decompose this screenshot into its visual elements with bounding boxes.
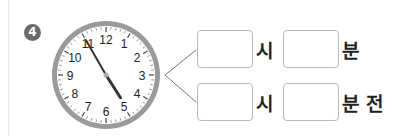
clock-number: 6 (103, 105, 110, 119)
clock-number: 9 (67, 69, 74, 83)
connector-top (165, 50, 196, 75)
hour-answer-box-2[interactable] (197, 83, 253, 121)
clock-center (104, 73, 109, 78)
clock-number: 4 (134, 87, 141, 101)
analog-clock: 121234567891011 (50, 19, 162, 131)
clock-number: 1 (121, 37, 128, 51)
clock-number: 3 (139, 69, 146, 83)
clock-number: 8 (71, 87, 78, 101)
clock-number: 5 (121, 100, 128, 114)
minute-unit-2: 분 전 (342, 93, 383, 115)
clock-number: 2 (134, 51, 141, 65)
hour-answer-box-1[interactable] (197, 30, 253, 68)
problem-number-badge: 4 (24, 24, 41, 41)
minute-answer-box-2[interactable] (283, 83, 339, 121)
minute-answer-box-1[interactable] (283, 30, 339, 68)
hour-unit-1: 시 (256, 40, 273, 62)
clock-number: 10 (68, 51, 82, 65)
clock-number: 12 (99, 33, 113, 47)
hour-unit-2: 시 (256, 93, 273, 115)
margin-rule (8, 0, 9, 136)
connector-bottom (165, 75, 196, 102)
connector-lines (160, 40, 200, 110)
minute-unit-1: 분 (342, 40, 359, 62)
clock-number: 7 (85, 100, 92, 114)
